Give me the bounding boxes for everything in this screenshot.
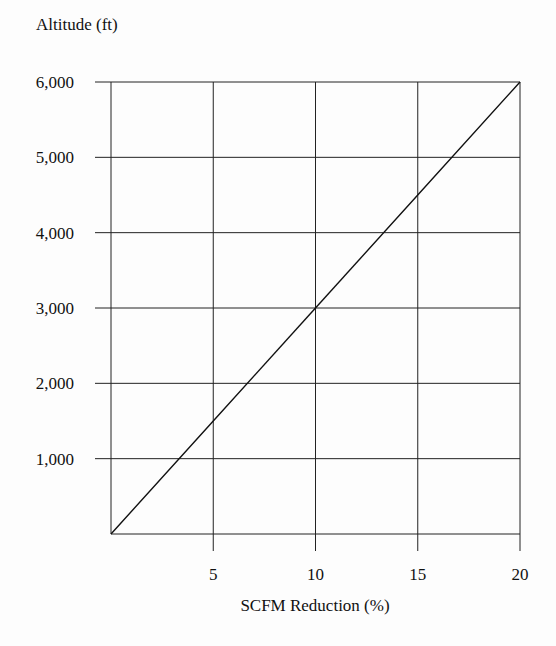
y-tick-label: 6,000	[36, 73, 74, 92]
y-tick-label: 2,000	[36, 374, 74, 393]
x-axis-label: SCFM Reduction (%)	[240, 596, 389, 615]
y-axis-ticks: 1,0002,0003,0004,0005,0006,000	[36, 73, 74, 469]
x-tick-label: 20	[512, 565, 529, 584]
x-tick-label: 5	[209, 565, 218, 584]
chart: 1,0002,0003,0004,0005,0006,000 5101520 A…	[0, 0, 556, 646]
y-tick-label: 1,000	[36, 450, 74, 469]
y-tick-label: 4,000	[36, 224, 74, 243]
y-tick-label: 5,000	[36, 148, 74, 167]
x-axis-ticks: 5101520	[209, 565, 529, 584]
x-tick-label: 15	[409, 565, 426, 584]
y-axis-label: Altitude (ft)	[36, 15, 118, 34]
x-tick-label: 10	[307, 565, 324, 584]
y-tick-label: 3,000	[36, 299, 74, 318]
